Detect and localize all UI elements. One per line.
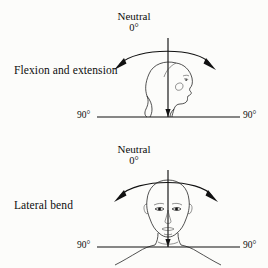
neutral-degrees-flexion: 0°	[0, 22, 268, 34]
neutral-degrees-lateral: 0°	[0, 155, 268, 167]
motion-arc	[120, 183, 212, 197]
panel-label-flexion-extension: Flexion and extension	[14, 64, 118, 76]
degree-label-right-lateral: 90°	[243, 240, 256, 250]
neutral-label-lateral: Neutral 0°	[0, 143, 268, 167]
neutral-word-flexion: Neutral	[0, 10, 268, 22]
head-profile-drawing	[145, 62, 192, 117]
degree-label-left-flexion: 90°	[77, 110, 90, 120]
neutral-line-arrowhead	[165, 239, 170, 247]
neutral-word-lateral: Neutral	[0, 143, 268, 155]
degree-label-left-lateral: 90°	[77, 240, 90, 250]
panel-flexion-extension: Flexion and extension Neutral 0° 90° 90°	[0, 0, 268, 134]
arc-arrowhead-left	[114, 190, 127, 202]
arc-arrowhead-right	[206, 190, 219, 202]
degree-label-right-flexion: 90°	[243, 110, 256, 120]
panel-label-lateral-bend: Lateral bend	[14, 199, 73, 211]
neutral-label-flexion: Neutral 0°	[0, 10, 268, 34]
arc-arrowhead-right	[204, 58, 217, 70]
range-of-motion-figure: Flexion and extension Neutral 0° 90° 90°	[0, 0, 268, 268]
panel-lateral-bend: Lateral bend Neutral 0° 90° 90°	[0, 134, 268, 268]
